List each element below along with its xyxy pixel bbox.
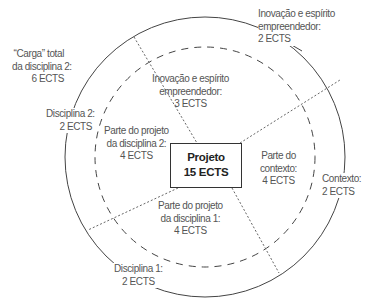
label-line: 4 ECTS	[260, 175, 297, 188]
label-line: Contexto:	[322, 173, 361, 186]
label-line: 2 ECTS	[322, 186, 361, 199]
label-line: Parte do	[260, 150, 297, 163]
label-line: 4 ECTS	[158, 225, 223, 238]
label-line: Inovação e espírito	[258, 8, 335, 21]
label-line: da disciplina 2:	[104, 138, 169, 151]
label-line: Parte do projeto	[158, 200, 223, 213]
label-line: empreendedor:	[258, 21, 335, 34]
label-line: Disciplina 1:	[114, 263, 163, 276]
project-center-box: Projeto 15 ECTS	[170, 143, 242, 188]
outer-discipline2-label: Disciplina 2: 2 ECTS	[44, 108, 94, 133]
label-line: 2 ECTS	[46, 121, 92, 134]
label-line: Inovação e espírito	[152, 73, 229, 86]
divider-bottom-right	[232, 188, 279, 273]
label-line: contexto:	[260, 163, 297, 176]
outer-innovation-label: Inovação e espírito empreendedor: 2 ECTS	[258, 8, 337, 46]
label-line: Disciplina 2:	[46, 108, 92, 121]
outer-discipline1-label: Disciplina 1: 2 ECTS	[112, 263, 165, 288]
label-line: 6 ECTS	[12, 73, 64, 86]
label-line: “Carga” total	[12, 48, 64, 61]
label-line: Parte do projeto	[104, 125, 169, 138]
label-line: empreendedor:	[152, 86, 229, 99]
label-line: 4 ECTS	[104, 150, 169, 163]
ects-diagram: Projeto 15 ECTS Inovação e espírito empr…	[0, 0, 365, 306]
outer-context-label: Contexto: 2 ECTS	[321, 173, 362, 198]
sector-innovation-label: Inovação e espírito empreendedor: 3 ECTS	[152, 73, 229, 111]
label-line: da disciplina 1:	[158, 213, 223, 226]
sector-context-label: Parte do contexto: 4 ECTS	[260, 150, 297, 188]
label-line: 2 ECTS	[114, 276, 163, 289]
project-ects: 15 ECTS	[171, 165, 241, 180]
label-line: 2 ECTS	[258, 33, 335, 46]
total-load-discipline2-label: “Carga” total da disciplina 2: 6 ECTS	[12, 48, 64, 86]
divider-top-right	[240, 80, 340, 143]
label-line: da disciplina 2:	[12, 61, 64, 74]
sector-discipline2-label: Parte do projeto da disciplina 2: 4 ECTS	[104, 125, 169, 163]
project-title: Projeto	[171, 150, 241, 165]
label-line: 3 ECTS	[152, 98, 229, 111]
sector-discipline1-label: Parte do projeto da disciplina 1: 4 ECTS	[158, 200, 223, 238]
